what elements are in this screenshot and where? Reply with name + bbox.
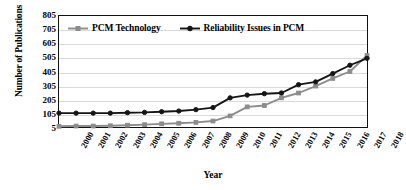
- x-axis-tick-labels: 2000200120022003200420052006200720082009…: [58, 130, 368, 164]
- y-tick-label: 105: [26, 109, 56, 119]
- data-point-marker: [211, 119, 215, 123]
- x-tick-label: 2004: [147, 130, 164, 150]
- data-point-marker: [245, 93, 249, 97]
- data-point-marker: [314, 84, 318, 88]
- data-point-marker: [194, 107, 198, 111]
- series-line: [59, 56, 367, 127]
- data-point-marker: [365, 56, 369, 60]
- data-point-marker: [262, 104, 266, 108]
- x-tick-label: 2017: [371, 130, 388, 150]
- x-tick-label: 2000: [79, 130, 96, 150]
- data-point-marker: [143, 123, 147, 127]
- data-point-marker: [160, 122, 164, 126]
- data-point-marker: [280, 96, 284, 100]
- data-point-marker: [297, 91, 301, 95]
- data-point-marker: [57, 111, 61, 115]
- y-tick-label: 605: [26, 38, 56, 48]
- data-point-marker: [57, 124, 61, 128]
- x-tick-label: 2014: [320, 130, 337, 150]
- data-point-marker: [228, 96, 232, 100]
- data-point-marker: [159, 110, 163, 114]
- series-1: [57, 54, 369, 128]
- data-point-marker: [262, 92, 266, 96]
- data-point-marker: [126, 123, 130, 127]
- x-tick-label: 2009: [234, 130, 251, 150]
- data-point-marker: [245, 105, 249, 109]
- y-tick-label: 5: [26, 123, 56, 133]
- y-axis-title: Number of Publications: [14, 0, 24, 116]
- y-tick-label: 205: [26, 95, 56, 105]
- y-tick-label: 305: [26, 81, 56, 91]
- data-point-marker: [91, 111, 95, 115]
- y-tick-label: 405: [26, 67, 56, 77]
- data-point-marker: [331, 71, 335, 75]
- data-point-marker: [91, 124, 95, 128]
- x-tick-label: 2015: [337, 130, 354, 150]
- x-tick-label: 2012: [285, 130, 302, 150]
- y-tick-label: 705: [26, 24, 56, 34]
- data-point-marker: [194, 121, 198, 125]
- series-line: [59, 58, 367, 113]
- data-point-marker: [74, 124, 78, 128]
- x-tick-label: 2010: [251, 130, 268, 150]
- x-tick-label: 2002: [113, 130, 130, 150]
- data-point-marker: [331, 77, 335, 81]
- x-tick-label: 2011: [268, 130, 285, 149]
- x-tick-label: 2003: [130, 130, 147, 150]
- x-tick-label: 2016: [354, 130, 371, 150]
- series-group: [59, 16, 367, 127]
- data-point-marker: [348, 63, 352, 67]
- data-point-marker: [177, 109, 181, 113]
- x-tick-label: 2001: [96, 130, 113, 150]
- y-tick-label: 805: [26, 10, 56, 20]
- x-tick-label: 2006: [182, 130, 199, 150]
- x-tick-label: 2018: [389, 130, 406, 150]
- data-point-marker: [211, 105, 215, 109]
- plot-area: PCM TechnologyReliability Issues in PCM: [58, 15, 368, 128]
- x-axis-title: Year: [58, 170, 368, 180]
- data-point-marker: [125, 111, 129, 115]
- data-point-marker: [108, 124, 112, 128]
- y-tick-label: 505: [26, 52, 56, 62]
- data-point-marker: [279, 91, 283, 95]
- data-point-marker: [296, 83, 300, 87]
- data-point-marker: [108, 111, 112, 115]
- x-tick-label: 2005: [165, 130, 182, 150]
- data-point-marker: [348, 70, 352, 74]
- x-tick-label: 2008: [216, 130, 233, 150]
- data-point-marker: [313, 80, 317, 84]
- y-axis-tick-labels: 5105205305405505605705805: [26, 10, 56, 130]
- data-point-marker: [74, 111, 78, 115]
- x-tick-label: 2013: [302, 130, 319, 150]
- data-point-marker: [177, 121, 181, 125]
- data-point-marker: [142, 110, 146, 114]
- series-2: [57, 56, 369, 115]
- data-point-marker: [228, 114, 232, 118]
- x-tick-label: 2007: [199, 130, 216, 150]
